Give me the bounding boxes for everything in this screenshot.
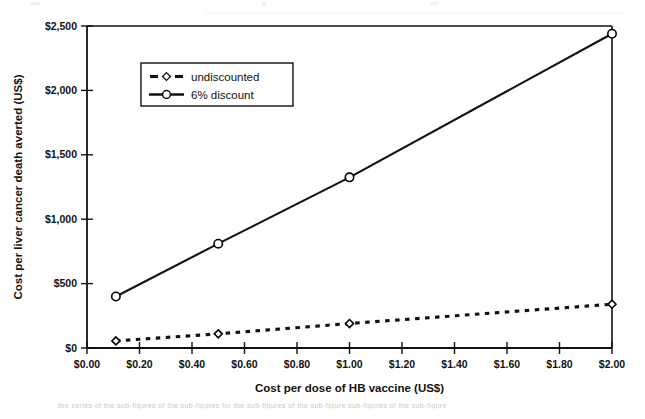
series-undiscounted	[112, 300, 616, 345]
legend-entry-discount[interactable]: 6% discount	[149, 89, 254, 101]
data-point-circle-marker	[345, 173, 353, 181]
data-point-circle-marker	[112, 292, 120, 300]
data-point-diamond-marker	[112, 337, 120, 345]
legend-entry-undiscounted[interactable]: undiscounted	[150, 71, 259, 83]
x-tick-label: $1.40	[441, 358, 467, 370]
y-axis-tick-labels: $0 $500 $1,000 $1,500 $2,000 $2,500	[45, 20, 77, 354]
legend: undiscounted 6% discount	[141, 63, 293, 106]
x-tick-label: $0.40	[179, 358, 205, 370]
x-tick-label: $0.60	[231, 358, 257, 370]
x-tick-label: $1.80	[546, 358, 572, 370]
data-point-diamond-marker	[346, 320, 354, 328]
legend-label-undiscounted: undiscounted	[191, 71, 259, 83]
legend-label-discount: 6% discount	[191, 89, 254, 101]
data-point-diamond-marker	[608, 300, 616, 308]
x-axis-title: Cost per dose of HB vaccine (US$)	[255, 382, 444, 394]
data-point-diamond-marker	[214, 330, 222, 338]
y-tick-label: $500	[54, 277, 78, 289]
data-point-circle-marker	[214, 239, 222, 247]
page-caption: the series of the sub-figures of the sub…	[58, 402, 618, 409]
x-axis-tick-labels: $0.00 $0.20 $0.40 $0.60 $0.80 $1.00 $1.2…	[74, 358, 625, 370]
y-axis-title: Cost per liver cancer death averted (US$…	[12, 74, 24, 299]
x-tick-label: $0.80	[284, 358, 310, 370]
y-tick-label: $2,500	[45, 20, 77, 32]
x-tick-label: $1.00	[336, 358, 362, 370]
legend-marker-circle-icon	[163, 91, 171, 99]
y-tick-label: $1,500	[45, 148, 77, 160]
line-chart: $0 $500 $1,000 $1,500 $2,000 $2,500 $0.0…	[0, 0, 645, 419]
x-tick-label: $0.20	[126, 358, 152, 370]
x-tick-label: $1.60	[494, 358, 520, 370]
x-tick-label: $1.20	[389, 358, 415, 370]
x-tick-label: $2.00	[599, 358, 625, 370]
data-point-circle-marker	[608, 30, 616, 38]
x-tick-label: $0.00	[74, 358, 100, 370]
figure-container: $0 $500 $1,000 $1,500 $2,000 $2,500 $0.0…	[0, 0, 645, 419]
y-tick-label: $2,000	[45, 84, 77, 96]
y-tick-label: $0	[65, 342, 77, 354]
y-tick-label: $1,000	[45, 213, 77, 225]
